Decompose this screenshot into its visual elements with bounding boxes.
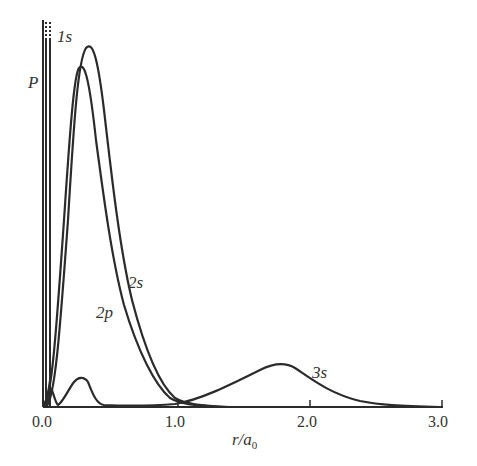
- curve-3s: [44, 364, 440, 407]
- x-axis-label: r/a0: [232, 430, 257, 451]
- x-axis-label-subscript: 0: [252, 439, 258, 451]
- curve-2p: [44, 67, 225, 407]
- y-axis-label: P: [28, 73, 38, 93]
- curve-1s: [43, 22, 50, 407]
- x-tick-label-0: 0.0: [32, 413, 52, 431]
- x-tick-label-1: 1.0: [165, 413, 185, 431]
- curve-label-1s: 1s: [57, 27, 72, 47]
- chart-canvas: [0, 0, 477, 466]
- x-tick-label-2: 2.0: [297, 413, 317, 431]
- x-tick-label-3: 3.0: [428, 413, 448, 431]
- curve-label-2p: 2p: [96, 303, 113, 323]
- x-axis-label-main: r/a: [232, 430, 252, 449]
- curve-label-2s: 2s: [128, 273, 143, 293]
- curve-label-3s: 3s: [312, 363, 327, 383]
